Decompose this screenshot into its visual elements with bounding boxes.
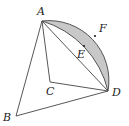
label-b: B: [2, 111, 11, 124]
segment-ab: [16, 21, 42, 116]
label-d: D: [111, 86, 121, 99]
segment-cd: [50, 82, 108, 91]
label-f: F: [98, 22, 107, 35]
geometry-diagram: A B C D E F: [0, 0, 129, 126]
point-f: [94, 35, 96, 37]
label-e: E: [76, 48, 85, 61]
point-e: [83, 45, 85, 47]
label-c: C: [46, 85, 55, 98]
segment-bd: [16, 91, 108, 116]
label-a: A: [36, 5, 45, 18]
segment-ac: [42, 21, 50, 82]
